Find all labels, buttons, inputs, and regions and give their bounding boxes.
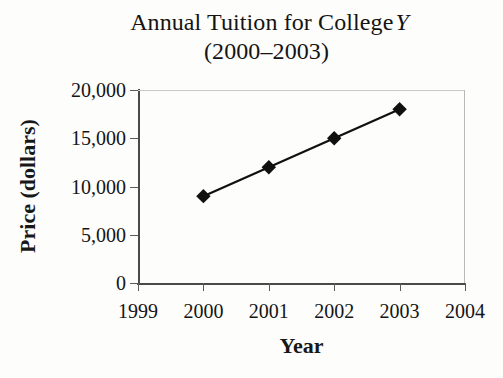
chart-figure: Annual Tuition for CollegeY (2000–2003) … (0, 0, 503, 378)
y-tick-mark (130, 90, 138, 91)
x-tick-label: 1999 (118, 300, 158, 323)
chart-title-variable: Y (393, 9, 408, 35)
x-tick-label: 2000 (183, 300, 223, 323)
data-point-marker (196, 189, 210, 203)
chart-title-block: Annual Tuition for CollegeY (2000–2003) (0, 8, 503, 67)
y-axis-title-text: Price (dollars) (15, 119, 41, 253)
x-axis-line (137, 283, 466, 285)
y-tick-label: 0 (116, 272, 126, 295)
x-tick-label: 2004 (445, 300, 485, 323)
chart-subtitle: (2000–2003) (0, 37, 503, 66)
x-tick-mark (138, 283, 139, 291)
y-tick-label: 5,000 (81, 223, 126, 246)
x-tick-mark (400, 283, 401, 291)
data-point-marker (262, 160, 276, 174)
data-series-line (138, 90, 465, 283)
data-point-marker (327, 131, 341, 145)
y-tick-label: 20,000 (71, 79, 126, 102)
y-tick-mark (130, 138, 138, 139)
plot-area: 05,00010,00015,00020,000 199920002001200… (138, 90, 465, 283)
x-tick-mark (334, 283, 335, 291)
y-axis-title: Price (dollars) (8, 86, 48, 286)
x-tick-label: 2001 (249, 300, 289, 323)
y-tick-mark (130, 235, 138, 236)
y-tick-label: 15,000 (71, 127, 126, 150)
y-tick-label: 10,000 (71, 175, 126, 198)
x-tick-mark (269, 283, 270, 291)
data-point-marker (392, 102, 406, 116)
chart-title-text: Annual Tuition for College (94, 9, 393, 35)
y-tick-mark (130, 187, 138, 188)
x-tick-mark (203, 283, 204, 291)
x-tick-mark (465, 283, 466, 291)
x-tick-label: 2003 (380, 300, 420, 323)
y-tick-mark (130, 283, 138, 284)
x-tick-label: 2002 (314, 300, 354, 323)
chart-title: Annual Tuition for CollegeY (0, 8, 503, 37)
x-axis-title: Year (138, 333, 465, 359)
